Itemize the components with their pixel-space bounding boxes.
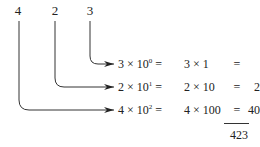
expansion-row-tens: 2 × 101 =2 × 10=20 — [118, 80, 260, 94]
expansion-row-hundreds: 4 × 102 =4 × 100=400 — [118, 103, 260, 117]
total: 423 — [222, 128, 248, 143]
result-ones: 3 — [244, 57, 260, 71]
sum-line — [224, 123, 249, 124]
result-hundreds: 400 — [244, 103, 260, 117]
result-tens: 20 — [244, 80, 260, 94]
arrow-hundreds — [19, 21, 114, 110]
expansion-row-ones: 3 × 100 =3 × 1=3 — [118, 57, 260, 71]
connector-arrows — [0, 0, 260, 147]
arrow-tens — [55, 21, 114, 87]
arrow-ones — [90, 21, 114, 64]
